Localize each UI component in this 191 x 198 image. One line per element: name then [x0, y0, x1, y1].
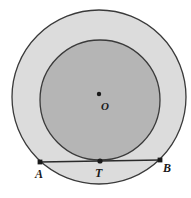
- point-label-b: B: [163, 162, 171, 174]
- inner-circle: [40, 40, 160, 160]
- point-marker-b: [158, 158, 163, 163]
- point-label-t: T: [95, 167, 102, 179]
- point-marker-o: [97, 92, 101, 96]
- center-label-o: O: [101, 101, 109, 112]
- point-marker-a: [38, 160, 43, 165]
- geometry-figure: A T B O: [0, 0, 191, 198]
- point-label-a: A: [35, 168, 43, 180]
- point-marker-t: [97, 158, 102, 163]
